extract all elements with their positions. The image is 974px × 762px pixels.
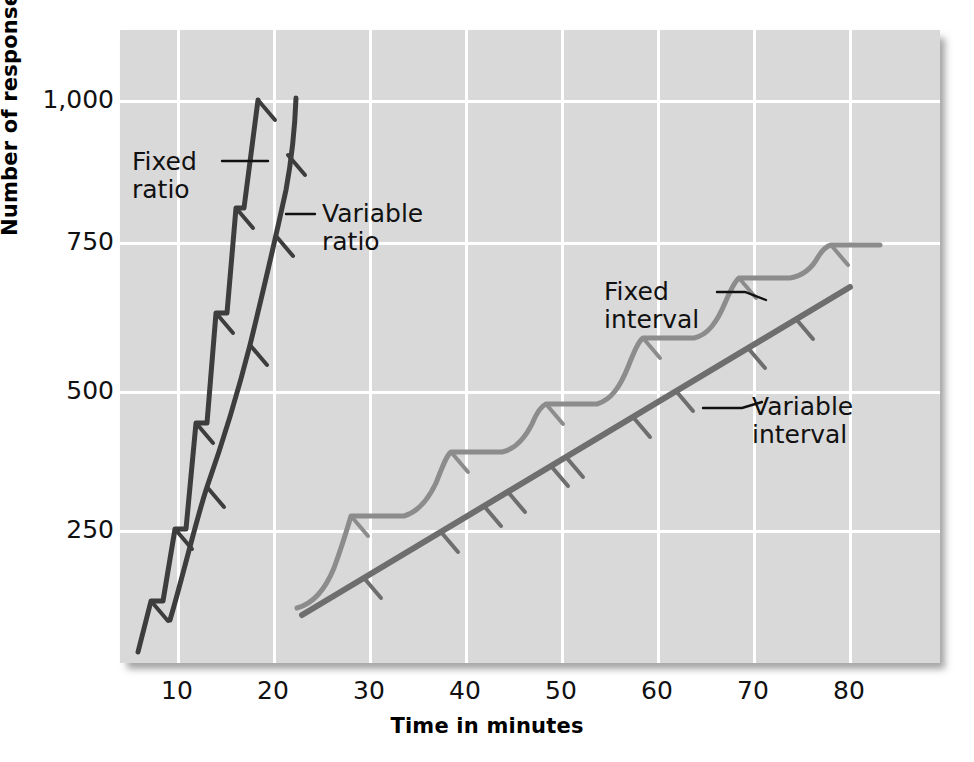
x-axis-title: Time in minutes [0, 714, 974, 738]
x-tick-label-10: 10 [147, 678, 207, 703]
x-tick-label-50: 50 [531, 678, 591, 703]
x-tick-label-80: 80 [819, 678, 879, 703]
x-axis: 10 20 30 40 50 60 70 80 [0, 0, 974, 762]
figure-schedules-of-reinforcement: Fixed ratio Variable ratio Fixed interva… [0, 0, 974, 762]
x-tick-label-20: 20 [243, 678, 303, 703]
x-tick-label-40: 40 [435, 678, 495, 703]
x-tick-label-60: 60 [627, 678, 687, 703]
x-tick-label-70: 70 [723, 678, 783, 703]
x-tick-label-30: 30 [339, 678, 399, 703]
